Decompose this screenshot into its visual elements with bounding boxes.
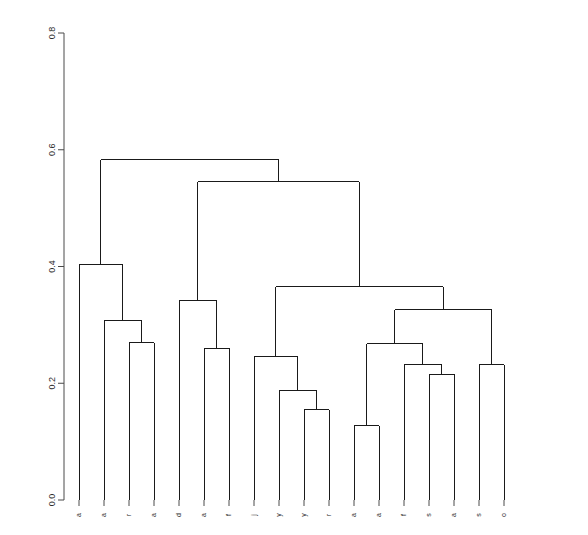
dendrogram-canvas: 0.00.20.40.60.8 aaradafjyyraafsaso — [0, 0, 588, 535]
leaf-label: o — [500, 513, 507, 517]
leaf-label: a — [350, 513, 357, 517]
leaf-label: a — [375, 513, 382, 517]
leaf-label: s — [425, 513, 432, 517]
leaf-label: j — [250, 514, 258, 517]
leaf-label: d — [175, 513, 182, 517]
y-axis-tick-label: 0.6 — [47, 143, 57, 156]
dendrogram-tree — [79, 160, 504, 500]
y-axis-tick-label: 0.2 — [47, 377, 57, 390]
leaf-label: a — [450, 513, 457, 517]
leaf-labels: aaradafjyyraafsaso — [75, 513, 507, 517]
leaf-label: r — [325, 513, 332, 516]
y-axis-tick-label: 0.0 — [47, 494, 57, 507]
leaf-tick-marks — [79, 500, 504, 506]
dendrogram-figure: 0.00.20.40.60.8 aaradafjyyraafsaso — [0, 0, 588, 535]
y-axis: 0.00.20.40.60.8 — [47, 27, 64, 507]
y-axis-tick-label: 0.8 — [47, 27, 57, 40]
leaf-label: s — [475, 513, 482, 517]
leaf-label: y — [275, 513, 283, 517]
leaf-label: f — [225, 514, 232, 516]
y-axis-tick-label: 0.4 — [47, 260, 57, 273]
leaf-label: a — [200, 513, 207, 517]
leaf-label: f — [400, 514, 407, 516]
leaf-label: r — [125, 513, 132, 516]
leaf-label: y — [300, 513, 308, 517]
leaf-label: a — [75, 513, 82, 517]
leaf-label: a — [100, 513, 107, 517]
leaf-label: a — [150, 513, 157, 517]
